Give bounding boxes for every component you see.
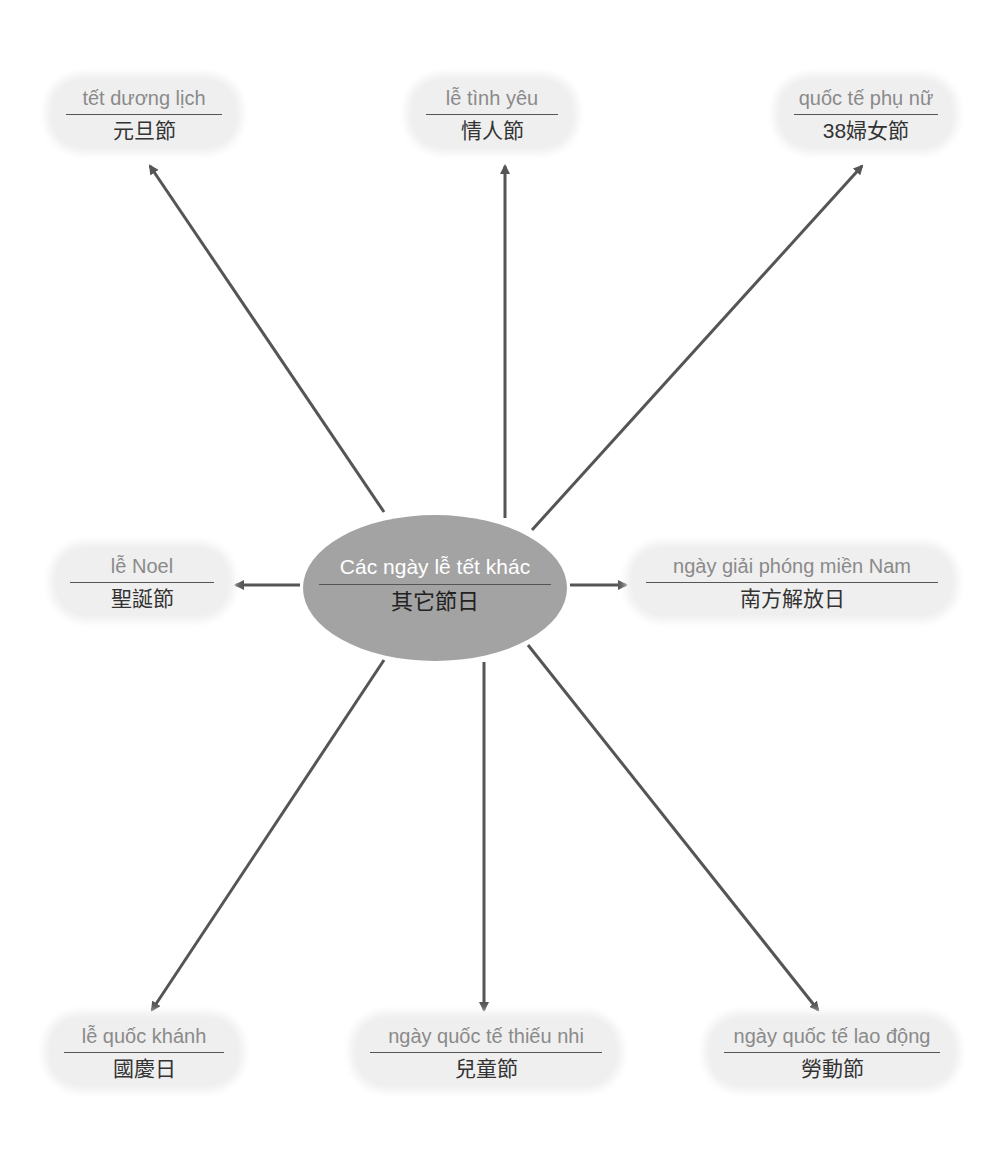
node-vietnamese-label: quốc tế phụ nữ <box>780 80 952 112</box>
arrow-to-labor-day <box>528 645 818 1010</box>
node-vietnamese-label: lễ Noel <box>56 548 228 580</box>
node-vietnamese-label: ngày quốc tế lao động <box>710 1018 954 1050</box>
center-node: Các ngày lễ tết khác 其它節日 <box>303 515 567 661</box>
arrow-to-new-year <box>150 166 384 512</box>
node-chinese-label: 國慶日 <box>50 1053 238 1085</box>
arrow-to-national-day <box>152 660 384 1010</box>
node-christmas: lễ Noel 聖誕節 <box>56 548 228 615</box>
node-vietnamese-label: tết dương lịch <box>52 80 236 112</box>
node-childrens-day: ngày quốc tế thiếu nhi 兒童節 <box>356 1018 616 1085</box>
node-vietnamese-label: ngày quốc tế thiếu nhi <box>356 1018 616 1050</box>
node-labor-day: ngày quốc tế lao động 勞動節 <box>710 1018 954 1085</box>
node-vietnamese-label: lễ quốc khánh <box>50 1018 238 1050</box>
node-chinese-label: 情人節 <box>412 115 572 147</box>
arrow-to-womens-day <box>532 166 862 530</box>
node-womens-day: quốc tế phụ nữ 38婦女節 <box>780 80 952 147</box>
node-vietnamese-label: lễ tình yêu <box>412 80 572 112</box>
node-chinese-label: 勞動節 <box>710 1053 954 1085</box>
node-chinese-label: 元旦節 <box>52 115 236 147</box>
node-valentine: lễ tình yêu 情人節 <box>412 80 572 147</box>
node-new-year: tết dương lịch 元旦節 <box>52 80 236 147</box>
node-chinese-label: 聖誕節 <box>56 583 228 615</box>
center-chinese-label: 其它節日 <box>303 585 567 619</box>
center-vietnamese-label: Các ngày lễ tết khác <box>303 552 567 582</box>
node-chinese-label: 38婦女節 <box>780 115 952 147</box>
node-national-day: lễ quốc khánh 國慶日 <box>50 1018 238 1085</box>
node-chinese-label: 兒童節 <box>356 1053 616 1085</box>
node-chinese-label: 南方解放日 <box>632 583 952 615</box>
node-liberation-day: ngày giải phóng miền Nam 南方解放日 <box>632 548 952 615</box>
node-vietnamese-label: ngày giải phóng miền Nam <box>632 548 952 580</box>
